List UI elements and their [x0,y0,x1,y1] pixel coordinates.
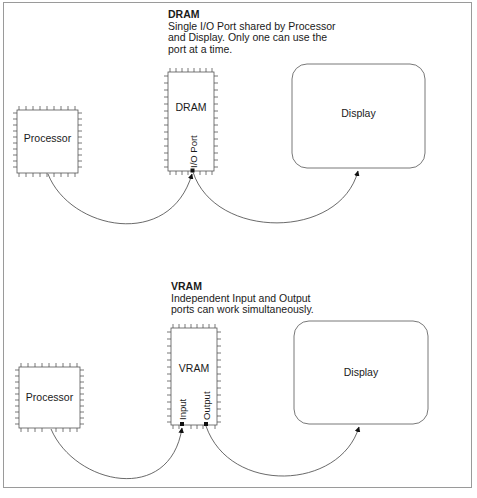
vram-caption-title: VRAM [171,281,371,293]
dram-io-port-dot [191,169,195,173]
vram-output-port-dot [204,422,208,426]
vram-input-port-dot [180,422,184,426]
dram-caption: DRAM Single I/O Port shared by Processor… [168,9,368,55]
dram-io-port-label: I/O Port [188,135,199,168]
diagram-graphics [0,0,477,498]
dram-processor-label: Processor [17,132,78,144]
vram-input-port-label: Input [177,399,188,420]
processor-to-vram-input-arrow [51,428,182,479]
diagram-canvas: DRAM Single I/O Port shared by Processor… [0,0,477,498]
processor-to-dram-arrow [48,174,192,224]
dram-caption-description: Single I/O Port shared by Processor and … [168,21,368,56]
vram-display-label: Display [294,366,428,378]
vram-caption-description: Independent Input and Output ports can w… [171,293,371,316]
vram-output-port-label: Output [201,391,212,420]
dram-memory-label: DRAM [168,101,214,113]
vram-processor-label: Processor [19,391,80,403]
dram-to-display-arrow [193,171,358,223]
vram-memory-label: VRAM [171,362,217,374]
vram-caption: VRAM Independent Input and Output ports … [171,281,371,316]
dram-display-label: Display [292,107,425,119]
vram-memory-chip [167,324,221,429]
dram-caption-title: DRAM [168,9,368,21]
vram-output-to-display-arrow [206,426,359,476]
